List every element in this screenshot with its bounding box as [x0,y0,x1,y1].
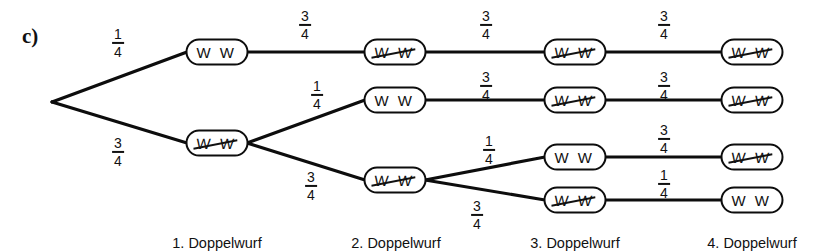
strikethrough-icon [551,96,595,106]
node-label: W W [374,172,416,189]
edge-probability: 14 [658,168,670,200]
node-label: W W [731,44,773,61]
tree-node-struck: W W [186,130,249,157]
tree-node-struck: W W [721,39,784,66]
edge-probability: 34 [658,70,670,102]
strikethrough-icon [728,96,772,106]
fraction-numerator: 1 [483,134,495,148]
fraction-numerator: 3 [658,9,670,23]
fraction-denominator: 4 [480,88,492,102]
tree-node-struck: W W [544,187,607,214]
node-label: W W [731,92,773,109]
fraction-denominator: 4 [299,27,311,41]
node-label: W W [554,92,596,109]
fraction-denominator: 4 [112,154,124,168]
tree-node-struck: W W [364,39,427,66]
edge-probability: 34 [480,70,492,102]
node-label: W W [731,149,773,166]
fraction-denominator: 4 [658,88,670,102]
edge-probability: 14 [311,79,323,111]
tree-node: W W [186,39,249,66]
strikethrough-icon [551,196,595,206]
fraction-denominator: 4 [658,27,670,41]
strikethrough-icon [551,48,595,58]
node-label: W W [374,44,416,61]
tree-edge [425,180,545,200]
fraction-denominator: 4 [658,141,670,155]
strikethrough-icon [728,48,772,58]
node-label: W W [555,149,596,166]
fraction-numerator: 3 [480,9,492,23]
fraction-numerator: 3 [658,70,670,84]
node-label: W W [732,192,773,209]
node-label: W W [375,92,416,109]
stage-caption-3: 3. Doppelwurf [530,235,619,251]
stage-caption-4: 4. Doppelwurf [707,235,796,251]
node-label: W W [196,135,238,152]
edge-probability: 14 [483,134,495,166]
tree-node: W W [721,187,784,214]
strikethrough-icon [728,153,772,163]
fraction-numerator: 3 [112,136,124,150]
probability-tree-figure: c) 14343414343434143434343414 W WW WW WW… [0,0,818,252]
stage-caption-1: 1. Doppelwurf [172,235,261,251]
fraction-denominator: 4 [112,45,124,59]
fraction-denominator: 4 [305,188,317,202]
tree-node-struck: W W [544,39,607,66]
fraction-numerator: 1 [112,27,124,41]
strikethrough-icon [371,176,415,186]
fraction-denominator: 4 [658,186,670,200]
fraction-numerator: 3 [305,170,317,184]
fraction-numerator: 3 [471,199,483,213]
fraction-denominator: 4 [471,217,483,231]
tree-node-struck: W W [364,167,427,194]
fraction-denominator: 4 [311,97,323,111]
edge-probability: 34 [480,9,492,41]
fraction-numerator: 3 [299,9,311,23]
edge-probability: 34 [305,170,317,202]
tree-node-struck: W W [544,87,607,114]
edge-probability: 34 [658,9,670,41]
node-label: W W [197,44,238,61]
node-label: W W [554,44,596,61]
fraction-denominator: 4 [483,152,495,166]
edge-probability: 34 [658,123,670,155]
fraction-numerator: 1 [311,79,323,93]
fraction-numerator: 1 [658,168,670,182]
fraction-denominator: 4 [480,27,492,41]
strikethrough-icon [371,48,415,58]
edge-probability: 34 [112,136,124,168]
edge-probability: 34 [299,9,311,41]
part-label: c) [22,24,38,49]
tree-node: W W [364,87,427,114]
tree-node: W W [544,144,607,171]
fraction-numerator: 3 [658,123,670,137]
stage-caption-2: 2. Doppelwurf [351,235,440,251]
edge-probability: 14 [112,27,124,59]
fraction-numerator: 3 [480,70,492,84]
strikethrough-icon [193,139,237,149]
node-label: W W [554,192,596,209]
edge-probability: 34 [471,199,483,231]
tree-edge [247,100,365,143]
tree-node-struck: W W [721,144,784,171]
tree-node-struck: W W [721,87,784,114]
